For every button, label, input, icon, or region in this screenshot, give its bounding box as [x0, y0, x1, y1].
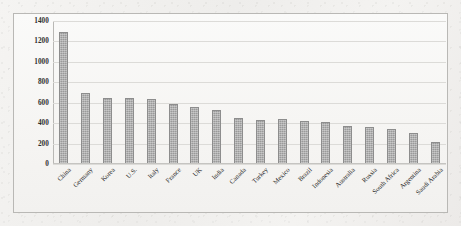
x-axis-label-china: China	[56, 166, 72, 182]
chart-frame: 0200400600800100012001400 ChinaGermanyKo…	[13, 13, 448, 213]
x-axis-label-u-s-: U.S.	[124, 166, 137, 179]
bar-korea	[103, 98, 112, 164]
x-axis-baseline	[53, 163, 446, 164]
x-axis-label-france: France	[164, 166, 182, 184]
x-axis-label-italy: Italy	[146, 166, 160, 180]
bar-argentina	[409, 133, 418, 164]
bar-saudi-arabia	[431, 142, 440, 164]
gridline-1000	[53, 62, 446, 63]
bar-brazil	[300, 121, 309, 164]
x-axis-label-canada: Canada	[228, 166, 247, 185]
bar-mexico	[278, 119, 287, 164]
x-axis-label-mexico: Mexico	[271, 166, 290, 185]
bar-indonesia	[321, 122, 330, 164]
y-axis-tick-labels: 0200400600800100012001400	[14, 21, 49, 164]
gridline-0	[53, 164, 446, 165]
y-axis-label-0: 0	[45, 160, 49, 168]
bar-turkey	[256, 120, 265, 164]
y-axis-label-800: 800	[38, 78, 49, 86]
bar-south-africa	[387, 129, 396, 164]
y-axis-label-600: 600	[38, 99, 49, 107]
x-axis-label-australia: Australia	[334, 166, 356, 188]
x-axis-label-indonesia: Indonesia	[311, 166, 334, 189]
x-axis-category-labels: ChinaGermanyKoreaU.S.ItalyFranceUKIndiaC…	[53, 166, 446, 224]
bar-germany	[81, 93, 90, 165]
bar-india	[212, 110, 221, 164]
bar-u-s-	[125, 98, 134, 164]
bar-uk	[190, 107, 199, 164]
x-axis-label-turkey: Turkey	[250, 166, 268, 184]
x-axis-label-india: India	[210, 166, 225, 181]
y-axis-label-400: 400	[38, 119, 49, 127]
plot-area	[53, 21, 446, 164]
bar-australia	[343, 126, 352, 164]
gridline-1400	[53, 21, 446, 22]
y-axis-label-1000: 1000	[34, 58, 49, 66]
x-axis-label-russia: Russia	[360, 166, 378, 184]
bar-canada	[234, 118, 243, 164]
bar-france	[169, 104, 178, 164]
bar-russia	[365, 127, 374, 164]
x-axis-label-uk: UK	[192, 166, 204, 178]
y-axis-label-1200: 1200	[34, 37, 49, 45]
bar-china	[59, 32, 68, 164]
x-axis-label-brazil: Brazil	[296, 166, 313, 183]
gridline-1200	[53, 41, 446, 42]
gridline-800	[53, 82, 446, 83]
y-axis-label-200: 200	[38, 140, 49, 148]
y-axis-label-1400: 1400	[34, 17, 49, 25]
x-axis-label-germany: Germany	[72, 166, 95, 189]
x-axis-label-korea: Korea	[100, 166, 117, 183]
bar-italy	[147, 99, 156, 164]
chart-plot-wrapper: 0200400600800100012001400 ChinaGermanyKo…	[14, 14, 447, 212]
